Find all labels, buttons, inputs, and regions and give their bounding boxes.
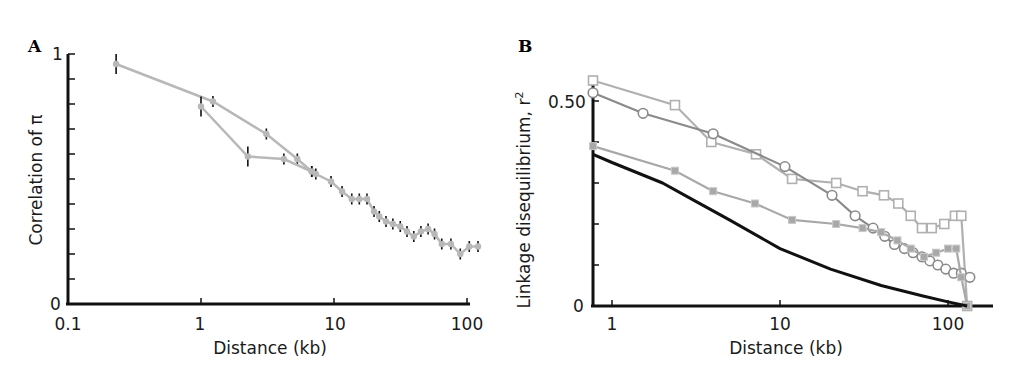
panel-b-y-axis-title: Linkage disequilibrium, r2 xyxy=(513,92,534,309)
filled-square-marker xyxy=(878,229,885,236)
data-point xyxy=(294,156,300,162)
open-circle-marker xyxy=(850,211,860,221)
data-point xyxy=(349,196,355,202)
data-point xyxy=(418,228,424,234)
data-point xyxy=(371,208,377,214)
filled-square-marker xyxy=(933,249,940,256)
data-point xyxy=(475,243,481,249)
panel-a-y-top-tick: 1 xyxy=(52,44,63,64)
filled-square-marker xyxy=(894,237,901,244)
data-point xyxy=(439,241,445,247)
data-point xyxy=(390,221,396,227)
filled-square-marker xyxy=(945,245,952,252)
data-point xyxy=(210,98,216,104)
open-square-marker xyxy=(894,199,903,208)
data-point xyxy=(431,231,437,237)
open-square-marker xyxy=(832,179,841,188)
data-point xyxy=(425,226,431,232)
open-square-marker xyxy=(927,224,936,233)
open-square-marker xyxy=(917,224,926,233)
filled-square-marker xyxy=(671,167,678,174)
panel-b-y-axis-title-group: Linkage disequilibrium, r2 xyxy=(513,92,534,309)
panel-b-x-tick-100: 100 xyxy=(932,314,964,334)
panel-b-label: B xyxy=(518,36,532,56)
panel-b-plot xyxy=(588,76,993,311)
panel-a-x-axis-title: Distance (kb) xyxy=(213,338,327,358)
open-square-marker xyxy=(788,174,797,183)
data-point xyxy=(457,251,463,257)
open-square-marker xyxy=(880,191,889,200)
data-point xyxy=(448,241,454,247)
filled-square-marker xyxy=(953,245,960,252)
filled-square-marker xyxy=(907,245,914,252)
filled-square-marker xyxy=(833,221,840,228)
data-point xyxy=(339,188,345,194)
panel-a-y-bottom-tick: 0 xyxy=(50,294,61,314)
panel-a-y-axis-title: Correlation of π xyxy=(26,114,46,245)
data-point xyxy=(263,131,269,137)
data-point xyxy=(245,153,251,159)
filled-square-marker xyxy=(958,274,965,281)
filled-square-marker xyxy=(590,143,597,150)
data-point xyxy=(281,156,287,162)
data-point xyxy=(411,233,417,239)
open-square-marker xyxy=(589,76,598,85)
data-point xyxy=(404,228,410,234)
data-point xyxy=(198,103,204,109)
panel-b-y-top-tick: 0.50 xyxy=(548,92,586,112)
open-square-marker xyxy=(906,211,915,220)
open-square-marker xyxy=(940,220,949,229)
open-circle-marker xyxy=(638,109,648,119)
panel-b-x-tick-10: 10 xyxy=(769,314,791,334)
filled-square-marker xyxy=(789,216,796,223)
filled-square-marker xyxy=(752,200,759,207)
open-square-marker xyxy=(670,101,679,110)
panel-a-label: A xyxy=(27,36,42,56)
data-point xyxy=(328,178,334,184)
data-point xyxy=(356,196,362,202)
panel-a-series-line xyxy=(201,107,312,172)
data-point xyxy=(383,218,389,224)
open-circle-marker xyxy=(708,129,718,139)
open-circle-marker xyxy=(780,162,790,172)
panel-b-x-tick-1: 1 xyxy=(607,314,618,334)
open-square-marker xyxy=(957,211,966,220)
figure: A 1 0 0.1 1 10 100 Distance (kb) Correla… xyxy=(0,0,1023,380)
panel-a-plot xyxy=(66,54,481,305)
panel-b-y-bottom-tick: 0 xyxy=(573,296,584,316)
panel-a-x-tick-1: 1 xyxy=(195,314,206,334)
panel-b-expectation-curve xyxy=(593,154,967,306)
data-point xyxy=(364,196,370,202)
panel-a-x-tick-0-1: 0.1 xyxy=(54,314,81,334)
panel-b-x-axis-title: Distance (kb) xyxy=(729,338,843,358)
filled-square-marker xyxy=(859,225,866,232)
filled-square-marker xyxy=(921,253,928,260)
open-circle-marker xyxy=(827,191,837,201)
data-point xyxy=(376,213,382,219)
data-point xyxy=(113,61,119,67)
filled-square-marker xyxy=(710,188,717,195)
open-circle-marker xyxy=(588,88,598,98)
data-point xyxy=(309,168,315,174)
panel-a-x-tick-100: 100 xyxy=(451,314,483,334)
open-square-marker xyxy=(858,187,867,196)
data-point xyxy=(397,223,403,229)
open-circle-marker xyxy=(965,273,975,283)
panel-a-x-tick-10: 10 xyxy=(324,314,346,334)
data-point xyxy=(466,243,472,249)
